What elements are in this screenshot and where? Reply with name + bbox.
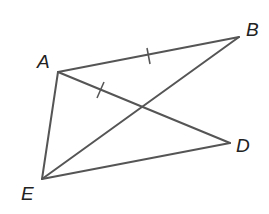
tick-mark-ab: [147, 48, 150, 64]
segment-ae: [42, 72, 58, 179]
label-a: A: [36, 51, 50, 72]
segment-eb: [42, 37, 239, 179]
label-e: E: [21, 183, 34, 204]
label-d: D: [236, 135, 250, 156]
label-b: B: [246, 19, 259, 40]
segment-ad: [58, 72, 230, 143]
geometry-diagram: A B D E: [0, 0, 269, 214]
segment-ed: [42, 143, 230, 179]
